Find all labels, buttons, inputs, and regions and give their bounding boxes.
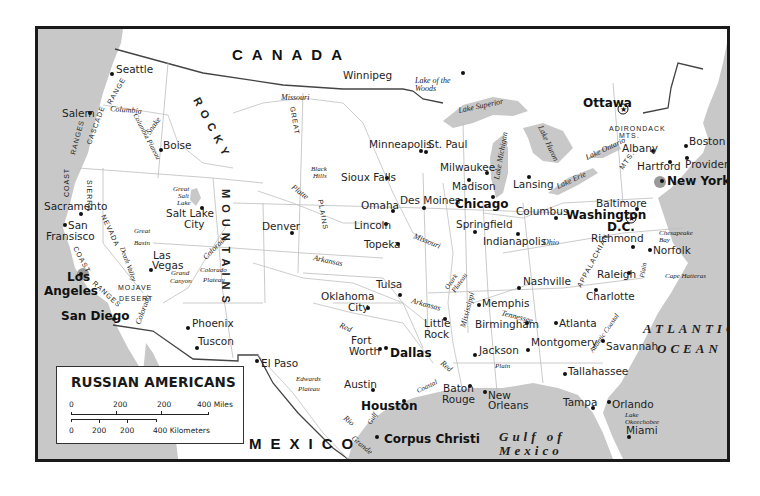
map-legend: RUSSIAN AMERICANS 0 200 200 400 Miles 0 … <box>56 366 244 444</box>
city-sacramento: Sacramento <box>44 200 108 212</box>
feature-chesapeake-2: Bay <box>659 236 671 244</box>
city-denver: Denver <box>262 220 301 232</box>
city-boston: Boston <box>689 135 725 147</box>
city-charlotte: Charlotte <box>586 290 635 302</box>
city-baltimore: Baltimore <box>596 197 647 209</box>
river-red-2: Red <box>438 358 455 374</box>
city-montgomery: Montgomery <box>531 336 598 348</box>
city-atlanta: Atlanta <box>559 317 597 329</box>
km-tick-0: 0 <box>69 426 74 435</box>
city-salem: Salem <box>62 107 95 119</box>
city-minneapolis: Minneapolis <box>369 138 432 150</box>
city-phoenix: Phoenix <box>192 317 234 329</box>
city-sioux-falls: Sioux Falls <box>341 171 396 183</box>
label-canada: CANADA <box>232 46 351 63</box>
feature-adirondack-2: MTS. <box>619 132 640 139</box>
miles-tick-3: 400 Miles <box>197 400 233 409</box>
feature-gulf-coastal-3: Plain <box>494 362 511 370</box>
city-orlando: Orlando <box>612 398 654 410</box>
feature-gsl-3: Lake <box>176 199 191 207</box>
label-gulf-of: Gulf of <box>499 429 566 444</box>
city-boise: Boise <box>163 139 191 151</box>
feature-lake-woods-2: Woods <box>415 84 436 93</box>
city-omaha: Omaha <box>361 199 399 211</box>
miles-tick-1: 200 <box>113 400 127 409</box>
city-new-york: New York <box>667 174 727 188</box>
feature-edwards-2: Plateau <box>297 385 320 393</box>
feature-atlantic-coastal-2: Plain <box>638 262 649 280</box>
km-tick-3: 400 Kilometers <box>153 426 210 435</box>
range-mountains: MOUNTAINS <box>220 189 232 309</box>
city-hartford: Hartford <box>637 160 681 172</box>
great-salt-lake <box>190 188 201 206</box>
city-houston: Houston <box>361 399 418 413</box>
city-corpus-christi: Corpus Christi <box>384 432 480 446</box>
city-jackson: Jackson <box>478 344 519 356</box>
city-topeka: Topeka <box>363 238 401 250</box>
city-san-francisco-2: Fransisco <box>46 230 95 242</box>
city-memphis: Memphis <box>482 297 529 309</box>
city-el-paso: El Paso <box>261 357 298 369</box>
label-atlantic: ATLANTIC <box>642 321 727 336</box>
city-baton-rouge-2: Rouge <box>442 393 475 405</box>
new-york-highlight <box>654 176 666 188</box>
city-san-diego: San Diego <box>61 309 130 323</box>
city-dallas: Dallas <box>390 346 432 360</box>
feature-death-valley: Death Valley <box>118 245 138 283</box>
city-norfolk: Norfolk <box>653 244 692 256</box>
city-des-moines: Des Moines <box>400 194 460 206</box>
river-missouri-1: Missouri <box>280 93 309 102</box>
city-seattle: Seattle <box>116 63 153 75</box>
feature-great-basin-2: Basin <box>134 239 150 247</box>
city-tallahassee: Tallahassee <box>567 365 628 377</box>
gulf-of-mexico <box>348 383 613 459</box>
city-columbus: Columbus <box>516 205 568 217</box>
city-los-angeles-2: Angeles <box>44 284 98 298</box>
km-tick-2: 200 <box>120 426 134 435</box>
city-raleigh: Raleigh <box>597 268 636 280</box>
feature-black-hills-2: Hills <box>312 172 327 180</box>
river-red-1: Red <box>337 320 354 334</box>
city-lansing: Lansing <box>513 178 554 190</box>
label-gulf-mexico: Mexico <box>498 443 563 458</box>
city-st-paul: St. Paul <box>428 138 467 150</box>
feature-okeechobee-2: Okeechobee <box>625 418 659 426</box>
city-tampa: Tampa <box>562 396 597 408</box>
feature-appalachian-mts: MTS. <box>618 150 636 171</box>
city-indianapolis: Indianapolis <box>483 235 546 247</box>
feature-mojave-1: MOJAVE <box>118 284 152 291</box>
range-coast: COAST <box>63 168 70 197</box>
river-missouri-2: Missouri <box>411 231 442 250</box>
miles-tick-2: 200 <box>157 400 171 409</box>
city-little-rock-2: Rock <box>424 328 450 340</box>
city-lincoln: Lincoln <box>354 219 391 231</box>
feature-cape-hatteras: Cape Hatteras <box>665 272 706 280</box>
range-sierra: SIERRA <box>86 180 93 212</box>
canada-border-east <box>643 63 703 113</box>
river-snake: Snake <box>144 115 163 136</box>
city-washington-2: D.C. <box>607 220 635 234</box>
feature-great-basin-1: Great <box>134 227 151 235</box>
range-great: GREAT <box>289 106 301 135</box>
range-plains: PLAINS <box>317 199 329 231</box>
city-austin: Austin <box>344 378 377 390</box>
label-ocean: OCEAN <box>657 341 722 356</box>
km-tick-1: 200 <box>92 426 106 435</box>
river-arkansas-2: Arkansas <box>410 296 442 313</box>
city-tuscon: Tuscon <box>197 335 234 347</box>
city-providence: Providence <box>685 158 727 170</box>
city-new-orleans-2: Orleans <box>488 399 529 411</box>
city-fort-worth-2: Worth <box>349 345 380 357</box>
map-frame: CANADA MEXICO ATLANTIC OCEAN Gulf of Mex… <box>35 26 730 462</box>
miles-tick-0: 0 <box>69 400 74 409</box>
feature-adirondack-1: ADIRONDACK <box>609 125 666 132</box>
feature-gulf-coastal-2: Coastal <box>415 378 438 394</box>
city-chicago: Chicago <box>455 197 509 211</box>
label-mexico: MEXICO <box>249 435 362 452</box>
feature-grand-canyon-2: Canyon <box>170 277 192 285</box>
city-winnipeg: Winnipeg <box>343 69 392 81</box>
city-savannah: Savannah <box>606 340 658 352</box>
river-ohio: Ohio <box>543 238 559 247</box>
river-mississippi: Mississippi <box>458 291 476 329</box>
city-tulsa: Tulsa <box>375 278 402 290</box>
